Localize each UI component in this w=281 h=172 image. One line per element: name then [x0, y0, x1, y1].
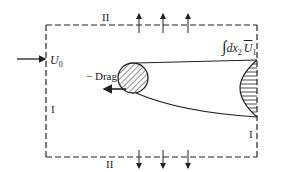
integral-dx: dx — [226, 41, 237, 55]
integral-velocity-subscript: 1 — [252, 48, 256, 57]
integral-dx-subscript: 2 — [238, 48, 242, 57]
label-right-surface: I — [249, 129, 253, 140]
freestream-velocity-subscript: 0 — [59, 60, 63, 69]
label-top-surface: II — [102, 12, 109, 23]
label-bottom-surface: II — [106, 159, 113, 170]
bottom-outflow-arrows — [139, 150, 188, 168]
diagram-canvas — [0, 0, 281, 172]
label-drag: − Drag — [86, 71, 117, 82]
wake-velocity-profile — [238, 60, 257, 117]
wake-lower-boundary — [136, 93, 257, 117]
top-outflow-arrows — [139, 14, 188, 33]
label-left-surface: I — [51, 104, 55, 115]
label-momentum-integral: ∫dx2U1 — [222, 39, 256, 57]
freestream-velocity-symbol: U — [50, 53, 59, 67]
label-freestream-velocity: U0 — [50, 54, 63, 69]
wake-upper-boundary — [136, 60, 257, 63]
